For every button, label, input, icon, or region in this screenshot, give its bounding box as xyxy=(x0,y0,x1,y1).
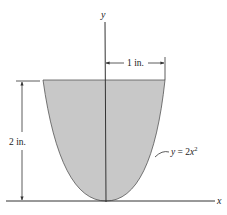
height-dimension-label: 2 in. xyxy=(9,137,26,147)
width-dimension-label: 1 in. xyxy=(127,58,144,68)
y-axis-label: y xyxy=(100,9,106,20)
equation-leader-line xyxy=(155,152,169,157)
x-axis-label: x xyxy=(216,195,222,206)
curve-equation-label: y = 2x2 xyxy=(170,145,198,157)
equation-exponent: 2 xyxy=(194,145,197,152)
shaded-region xyxy=(43,80,165,201)
parabolic-area-diagram: y x 1 in. 2 in. y = 2x2 xyxy=(0,0,227,215)
equation-eq: = 2 xyxy=(175,147,190,157)
